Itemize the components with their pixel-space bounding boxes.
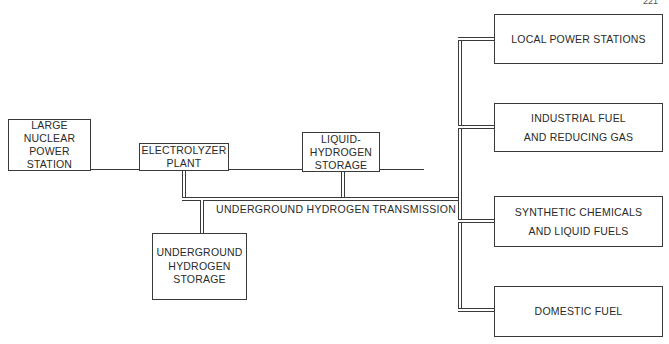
node-domestic-fuel: DOMESTIC FUEL [494,286,663,337]
pipe-underground-storage [200,200,204,234]
node-nuclear-power-station: LARGE NUCLEAR POWER STATION [8,119,91,171]
node-electrolyzer-plant: ELECTROLYZER PLANT [139,143,229,171]
branch-domestic [458,308,495,312]
pipeline-label: UNDERGROUND HYDROGEN TRANSMISSION [216,203,456,215]
node-label: LOCAL POWER STATIONS [511,30,646,49]
page-number: 221 [643,0,658,6]
node-underground-hydrogen-storage: UNDERGROUND HYDROGEN STORAGE [152,233,247,300]
distribution-trunk [458,37,462,312]
node-industrial-fuel: INDUSTRIAL FUEL AND REDUCING GAS [494,103,663,152]
node-synthetic-chemicals: SYNTHETIC CHEMICALS AND LIQUID FUELS [494,196,663,247]
node-label: LIQUID- HYDROGEN STORAGE [310,133,372,172]
branch-synthetic [458,219,495,223]
node-label: DOMESTIC FUEL [535,302,623,321]
node-label: SYNTHETIC CHEMICALS AND LIQUID FUELS [515,203,642,241]
node-label: ELECTROLYZER PLANT [141,144,226,170]
transmission-pipeline [182,197,462,201]
node-label: UNDERGROUND HYDROGEN STORAGE [156,246,242,287]
node-liquid-hydrogen-storage: LIQUID- HYDROGEN STORAGE [302,132,380,172]
branch-local-power [458,37,495,41]
node-label: LARGE NUCLEAR POWER STATION [24,119,76,171]
node-label: INDUSTRIAL FUEL AND REDUCING GAS [524,109,633,147]
node-local-power-stations: LOCAL POWER STATIONS [494,14,663,64]
branch-industrial [458,125,495,129]
